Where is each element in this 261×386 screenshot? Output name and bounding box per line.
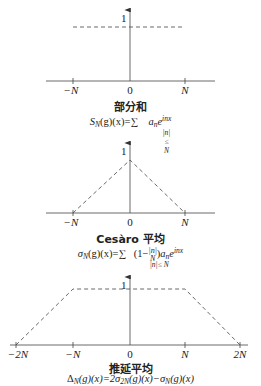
formula-paren: (1− [134,248,149,259]
y-tick-1: 1 [121,279,127,291]
series-dashed [73,160,185,213]
plot-partial-sum [46,10,215,84]
y-tick-1: 1 [121,12,127,24]
x-tick-0: 0 [127,84,133,96]
formula: ΔN(g)(x)=2σ2N(g)(x)−σN(g)(x) [0,373,261,386]
chart-title: Cesàro 平均 [0,230,261,246]
x-tick-n: N [181,84,188,96]
formula-part-c: (g)(x)−σ [129,373,165,384]
formula: SN(g)(x)=∑ |n|≤ N aneinx [0,114,261,129]
series-dashed [16,289,240,345]
x-tick-neg-n: −N [64,84,79,96]
chart-canvas [0,0,261,386]
formula-part-b-sub: 2N [120,377,129,386]
x-tick-0: 0 [127,216,133,228]
x-tick-neg-n: −N [66,348,81,360]
x-tick-n: N [181,216,188,228]
formula-exp: inx [174,246,183,255]
x-tick-neg-n: −N [64,216,79,228]
formula-mid: (g)(x)=∑ [100,116,138,127]
formula-sum-range: |n|≤ N [162,128,172,155]
formula-sum-range: |n|≤ N [150,260,169,269]
formula-delta: Δ [67,373,74,384]
formula: σN(g)(x)=∑ |n|≤ N (1−|n|N)aneinx [0,246,261,263]
plot-cesaro [46,143,215,216]
x-tick-2n: 2N [234,348,247,360]
x-tick-0: 0 [127,348,133,360]
chart-title: 部分和 [0,98,261,114]
y-tick-1: 1 [121,145,127,157]
plot-delayed-mean [10,277,248,348]
x-tick-n: N [181,348,188,360]
formula-part-d: (g)(x) [170,373,194,384]
formula-mid: (g)(x)=∑ [88,248,126,259]
x-tick-neg-2n: −2N [8,348,28,360]
formula-exp: inx [162,114,171,123]
formula-part-b: (g)(x)=2σ [79,373,120,384]
